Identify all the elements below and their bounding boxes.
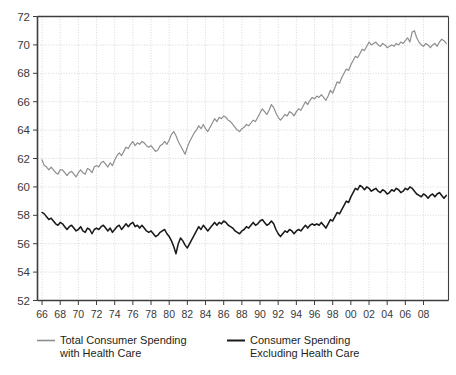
x-tick-label: 82 <box>182 308 194 320</box>
x-tick-label: 86 <box>218 308 230 320</box>
y-tick-label: 72 <box>17 11 30 23</box>
y-tick-label: 58 <box>17 209 30 221</box>
y-tick-label: 62 <box>17 153 30 165</box>
x-tick-label: 66 <box>36 308 48 320</box>
x-tick-label: 72 <box>91 308 103 320</box>
y-tick-label: 60 <box>17 181 30 193</box>
x-tick-label: 06 <box>400 308 412 320</box>
x-tick-label: 08 <box>418 308 430 320</box>
legend-label-line2: Excluding Health Care <box>250 347 359 359</box>
x-tick-label: 96 <box>309 308 321 320</box>
x-tick-label: 92 <box>272 308 284 320</box>
legend-label-line2: with Health Care <box>59 347 141 359</box>
y-tick-label: 64 <box>17 124 30 136</box>
legend-label-line1: Consumer Spending <box>250 334 350 346</box>
y-tick-label: 54 <box>17 266 30 278</box>
y-tick-label: 66 <box>17 96 30 108</box>
x-tick-label: 04 <box>381 308 393 320</box>
y-tick-label: 70 <box>17 39 30 51</box>
x-tick-label: 88 <box>236 308 248 320</box>
x-tick-label: 78 <box>145 308 157 320</box>
x-tick-label: 76 <box>127 308 139 320</box>
y-tick-label: 68 <box>17 67 30 79</box>
x-tick-label: 70 <box>73 308 85 320</box>
x-tick-label: 94 <box>291 308 303 320</box>
chart-figure: 5254565860626466687072 66687072747678808… <box>0 0 456 375</box>
x-tick-label: 80 <box>163 308 175 320</box>
x-tick-label: 84 <box>200 308 212 320</box>
x-tick-label: 90 <box>254 308 266 320</box>
line-chart: 5254565860626466687072 66687072747678808… <box>0 0 456 375</box>
x-tick-label: 98 <box>327 308 339 320</box>
y-tick-label: 56 <box>17 238 30 250</box>
x-tick-label: 74 <box>109 308 121 320</box>
x-tick-label: 68 <box>54 308 66 320</box>
x-tick-label: 02 <box>363 308 375 320</box>
x-tick-label: 00 <box>345 308 357 320</box>
y-tick-label: 52 <box>17 295 30 307</box>
legend-label-line1: Total Consumer Spending <box>60 334 187 346</box>
